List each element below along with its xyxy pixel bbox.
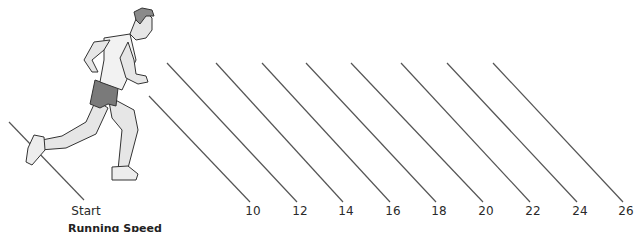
runner-figure [26, 8, 154, 180]
running-speed-diagram [0, 0, 643, 232]
speed-label-24: 24 [572, 204, 587, 218]
speed-line-14 [216, 63, 343, 202]
speed-label-18: 18 [431, 204, 446, 218]
speed-line-10 [149, 96, 250, 202]
speed-label-20: 20 [478, 204, 493, 218]
speed-label-10: 10 [245, 204, 260, 218]
speed-label-26: 26 [618, 204, 633, 218]
speed-line-22 [401, 63, 530, 202]
speed-line-12 [167, 63, 297, 202]
speed-label-16: 16 [385, 204, 400, 218]
start-label: Start [71, 204, 100, 218]
speed-label-14: 14 [338, 204, 353, 218]
speed-label-12: 12 [292, 204, 307, 218]
speed-lines [149, 63, 623, 202]
speed-label-22: 22 [525, 204, 540, 218]
figure-caption: Running Speed [68, 222, 162, 232]
